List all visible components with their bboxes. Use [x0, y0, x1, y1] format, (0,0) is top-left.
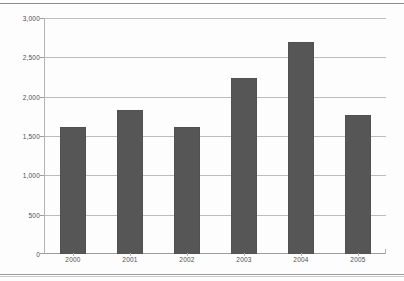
- x-axis-tick-label: 2001: [122, 256, 137, 263]
- bar: [60, 127, 86, 254]
- x-axis-tick-label: 2003: [236, 256, 251, 263]
- page-rule-bottom-secondary: [0, 276, 404, 277]
- page-rule-top: [0, 3, 404, 4]
- x-axis-end-cap: [385, 249, 386, 254]
- y-axis-tick-label: 0: [36, 251, 40, 258]
- bar: [345, 115, 371, 254]
- bar: [174, 127, 200, 254]
- y-axis-tick-label: 2,500: [23, 54, 40, 61]
- bar: [288, 42, 314, 254]
- bar: [231, 78, 257, 254]
- bar-series: [44, 18, 386, 254]
- y-axis-tick-label: 1,000: [23, 172, 40, 179]
- x-axis-tick-label: 2004: [293, 256, 308, 263]
- y-axis-tick-label: 500: [29, 212, 40, 219]
- page-rule-bottom: [0, 274, 404, 275]
- y-axis-labels: 05001,0001,5002,0002,5003,000: [0, 18, 40, 254]
- chart-page: 05001,0001,5002,0002,5003,000 2000200120…: [0, 0, 404, 281]
- y-axis-tick-label: 3,000: [23, 15, 40, 22]
- x-axis-tick-label: 2005: [350, 256, 365, 263]
- x-axis-tick-label: 2000: [65, 256, 80, 263]
- y-axis-tick-label: 2,000: [23, 94, 40, 101]
- x-axis-tick-label: 2002: [179, 256, 194, 263]
- bar: [117, 110, 143, 254]
- y-axis-tick-label: 1,500: [23, 133, 40, 140]
- x-axis-labels: 200020012002200320042005: [44, 256, 386, 270]
- plot-area: [44, 18, 386, 254]
